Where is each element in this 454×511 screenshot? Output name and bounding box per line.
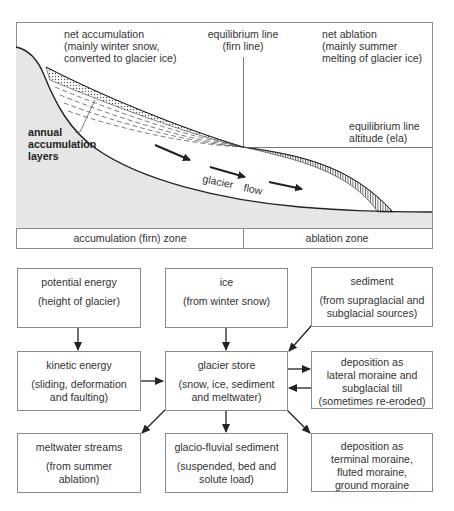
accumulation-zone-label: accumulation (firn) zone: [73, 232, 186, 244]
box-glacier-store: glacier store (snow, ice, sediment and m…: [165, 351, 288, 411]
ablation-zone-label: ablation zone: [305, 232, 368, 244]
svg-text:equilibrium line: equilibrium line: [349, 120, 420, 132]
arrow-store-to-meltwater: [142, 410, 165, 433]
box-lateral-deposition: deposition as lateral moraine and subgla…: [311, 351, 433, 409]
box-ice: ice (from winter snow): [165, 268, 288, 328]
svg-text:equilibrium line: equilibrium line: [208, 28, 279, 40]
svg-text:converted to glacier ice): converted to glacier ice): [64, 52, 176, 64]
svg-text:annual: annual: [28, 126, 62, 138]
svg-text:layers: layers: [28, 150, 59, 162]
svg-text:(mainly summer: (mainly summer: [322, 40, 398, 52]
svg-text:net ablation: net ablation: [322, 28, 377, 40]
svg-text:net accumulation: net accumulation: [64, 28, 144, 40]
svg-text:melting of glacier ice): melting of glacier ice): [322, 52, 422, 64]
svg-text:altitude (ela): altitude (ela): [349, 132, 407, 144]
arrow-sediment-to-store: [289, 325, 312, 351]
box-potential-energy: potential energy (height of glacier): [17, 268, 141, 328]
box-sediment: sediment (from supraglacial and subglaci…: [311, 267, 433, 327]
box-terminal-deposition: deposition as terminal moraine, fluted m…: [311, 433, 433, 492]
svg-text:accumulation: accumulation: [28, 138, 96, 150]
box-kinetic-energy: kinetic energy (sliding, deformation and…: [17, 351, 141, 411]
svg-text:(mainly winter snow,: (mainly winter snow,: [64, 40, 159, 52]
box-glaciofluvial-sediment: glacio-fluvial sediment (suspended, bed …: [165, 433, 288, 493]
box-meltwater-streams: meltwater streams (from summer ablation): [17, 433, 141, 493]
svg-text:(firn line): (firn line): [222, 40, 263, 52]
arrow-store-to-terminal: [287, 410, 310, 433]
